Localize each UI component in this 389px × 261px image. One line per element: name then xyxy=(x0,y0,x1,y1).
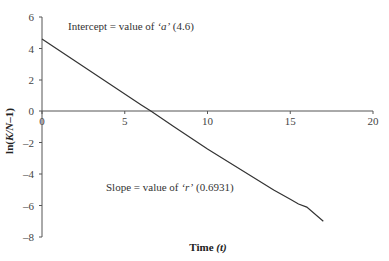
x-axis-title: Time (t) xyxy=(189,241,226,254)
y-tick-label: –2 xyxy=(22,137,34,149)
y-tick-label: –4 xyxy=(22,168,35,180)
y-tick-label: 2 xyxy=(29,74,35,86)
y-tick-label: –8 xyxy=(22,231,35,243)
data-line xyxy=(42,39,323,221)
y-tick-label: 4 xyxy=(29,43,35,55)
chart: 6 4 2 0 –2 –4 –6 –8 0 5 10 15 20 Interce… xyxy=(0,0,389,261)
x-tick-label: 15 xyxy=(285,115,297,127)
x-tick-label: 5 xyxy=(122,115,128,127)
intercept-annotation: Intercept = value of ‘a’ (4.6) xyxy=(68,20,194,33)
y-tick-label: 0 xyxy=(29,105,35,117)
x-tick-label: 20 xyxy=(368,115,380,127)
y-axis-title: ln(K/N–1) xyxy=(3,108,16,154)
x-tick-label: 10 xyxy=(202,115,214,127)
y-tick-label: –6 xyxy=(22,200,35,212)
slope-annotation: Slope = value of ‘r’ (0.6931) xyxy=(106,181,234,194)
y-tick-label: 6 xyxy=(29,11,35,23)
x-tick-label: 0 xyxy=(39,115,45,127)
